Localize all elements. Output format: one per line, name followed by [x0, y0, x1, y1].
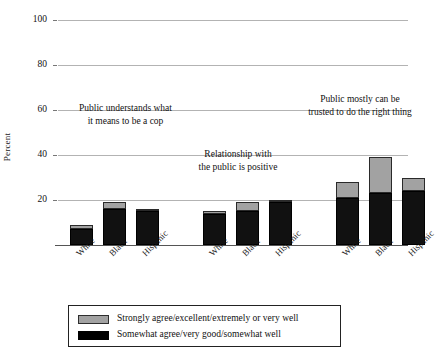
- y-tick-label: 100: [11, 14, 47, 24]
- bar-black-group3: [369, 157, 392, 245]
- legend-swatch-strongly-icon: [78, 315, 109, 324]
- y-tick-mark: [53, 65, 57, 66]
- annot-trusted-line2: trusted to do the right thing: [280, 106, 439, 119]
- bar-segment-strongly: [203, 211, 226, 213]
- legend-label-strongly: Strongly agree/excellent/extremely or ve…: [117, 313, 298, 323]
- y-tick-mark: [53, 20, 57, 21]
- bar-segment-strongly: [70, 225, 93, 230]
- y-tick-label: 40: [11, 149, 47, 159]
- legend-label-somewhat: Somewhat agree/very good/somewhat well: [117, 329, 281, 339]
- annot-understands-line2: it means to be a cop: [38, 115, 213, 128]
- annot-relationship-line1: Relationship with: [163, 148, 313, 161]
- y-tick-mark: [53, 155, 57, 156]
- annot-trusted: Public mostly can betrusted to do the ri…: [280, 93, 439, 119]
- annot-relationship-line2: the public is positive: [163, 161, 313, 174]
- bar-segment-strongly: [369, 157, 392, 193]
- gridline: [58, 20, 408, 21]
- bar-segment-strongly: [402, 178, 425, 192]
- y-tick-mark: [53, 200, 57, 201]
- bar-segment-strongly: [236, 202, 259, 211]
- bar-segment-strongly: [103, 202, 126, 209]
- y-tick-label: 20: [11, 194, 47, 204]
- annot-trusted-line1: Public mostly can be: [280, 93, 439, 106]
- bar-segment-strongly: [336, 182, 359, 198]
- annot-relationship: Relationship withthe public is positive: [163, 148, 313, 174]
- bar-segment-strongly: [269, 200, 292, 202]
- chart-legend: Strongly agree/excellent/extremely or ve…: [68, 305, 341, 347]
- legend-swatch-somewhat-icon: [78, 331, 109, 340]
- bar-segment-strongly: [136, 209, 159, 211]
- y-tick-label: 80: [11, 59, 47, 69]
- y-axis-label: Percent: [2, 112, 12, 182]
- annot-understands-line1: Public understands what: [38, 102, 213, 115]
- annot-understands: Public understands whatit means to be a …: [38, 102, 213, 128]
- gridline: [58, 65, 408, 66]
- plot-area: 20406080100WhiteBlackHispanicWhiteBlackH…: [58, 20, 408, 245]
